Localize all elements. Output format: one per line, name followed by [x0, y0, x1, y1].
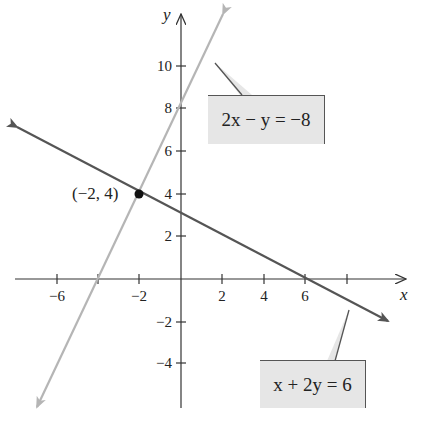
callout-tail-eq2-edge — [335, 310, 349, 361]
equation-label-2: x + 2y = 6 — [273, 374, 351, 396]
y-axis-label: y — [161, 5, 171, 24]
intersection-point — [135, 190, 144, 199]
callout-tail-eq1-edge — [215, 63, 242, 95]
intersection-label: (−2, 4) — [72, 184, 118, 204]
y-tick-label: 6 — [165, 143, 173, 159]
y-tick-label: 2 — [165, 228, 173, 244]
x-tick-label: 2 — [218, 288, 226, 304]
y-tick-label: 8 — [165, 100, 173, 116]
line-x-plus-2y-eq-6 — [17, 127, 388, 321]
x-tick-label: 4 — [260, 288, 268, 304]
y-tick-label: 10 — [157, 58, 172, 74]
equation-box-2: x + 2y = 6 — [260, 360, 366, 408]
y-tick-label: −4 — [156, 355, 172, 371]
x-axis-label: x — [399, 285, 408, 304]
x-tick-label: −2 — [131, 288, 147, 304]
x-tick-label: 6 — [301, 288, 309, 304]
y-tick-label: 4 — [165, 186, 173, 202]
line-2x-minus-y-eq-neg8 — [37, 14, 223, 407]
equation-box-1: 2x − y = −8 — [208, 95, 325, 144]
callout-tail-eq2 — [327, 310, 349, 361]
callout-tail-eq1 — [215, 63, 252, 95]
equation-label-1: 2x − y = −8 — [221, 109, 310, 131]
y-tick-label: −2 — [156, 314, 172, 330]
x-tick-label: −6 — [49, 288, 65, 304]
